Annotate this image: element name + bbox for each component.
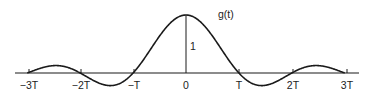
tick-label: 2T [287,79,300,91]
tick-label: −T [128,79,141,91]
amplitude-label: 1 [190,40,196,52]
tick-label: 3T [341,79,354,91]
sinc-pulse-diagram: g(t) 1 −3T−2T−T0T2T3T [0,0,369,95]
tick-label: T [236,79,243,91]
tick-label: −2T [72,79,91,91]
tick-label: −3T [20,79,39,91]
tick-label: 0 [183,79,189,91]
function-label: g(t) [218,8,234,20]
tick-labels: −3T−2T−T0T2T3T [20,79,354,91]
